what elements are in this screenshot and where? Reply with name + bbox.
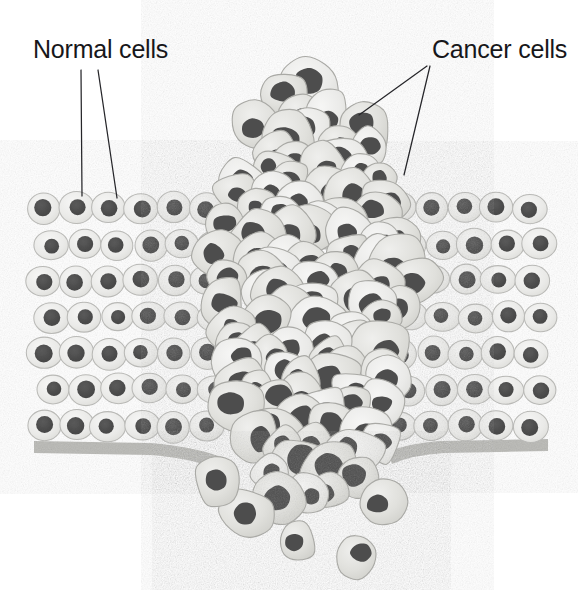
normal-cell-nucleus: [133, 345, 148, 360]
normal-cell-nucleus: [44, 309, 61, 326]
normal-cell-nucleus: [436, 239, 450, 253]
normal-cell-nucleus: [434, 308, 449, 323]
normal-cell-nucleus: [425, 345, 441, 361]
normal-cell-nucleus: [100, 273, 116, 289]
normal-cell-nucleus: [199, 418, 214, 433]
normal-cell-nucleus: [423, 200, 439, 216]
normal-cell-nucleus: [521, 419, 538, 436]
normal-cell-nucleus: [36, 274, 52, 290]
normal-cell-nucleus: [521, 202, 537, 218]
normal-cell-nucleus: [67, 417, 84, 434]
normal-cell-nucleus: [491, 273, 506, 288]
normal-cell-nucleus: [434, 381, 451, 398]
label-normal-cells: Normal cells: [33, 35, 168, 63]
normal-cell-nucleus: [135, 418, 151, 434]
normal-cell-nucleus: [109, 380, 126, 397]
normal-cell-nucleus: [36, 416, 53, 433]
normal-cell-nucleus: [77, 236, 93, 252]
normal-cell-nucleus: [99, 419, 114, 434]
normal-cell-nucleus: [47, 382, 62, 397]
normal-cell-nucleus: [468, 311, 483, 326]
normal-cell-nucleus: [44, 239, 59, 254]
normal-cell-nucleus: [102, 346, 118, 362]
normal-cell-nucleus: [175, 236, 190, 251]
normal-cell-nucleus: [77, 380, 95, 398]
normal-cell-nucleus: [458, 416, 474, 432]
normal-cell-nucleus: [466, 381, 483, 398]
normal-cell-nucleus: [133, 271, 150, 288]
normal-cell-nucleus: [35, 345, 53, 363]
normal-cell-nucleus: [175, 309, 191, 325]
normal-cell-nucleus: [70, 199, 86, 215]
normal-cell-nucleus: [533, 236, 549, 252]
normal-cell-nucleus: [34, 199, 51, 216]
normal-cell-nucleus: [466, 237, 483, 254]
normal-cell-nucleus: [457, 198, 473, 214]
normal-cell-nucleus: [78, 309, 93, 324]
normal-cell-nucleus: [142, 379, 158, 395]
normal-cell-nucleus: [108, 237, 124, 253]
normal-cell-nucleus: [142, 237, 159, 254]
normal-cell-nucleus: [134, 201, 151, 218]
cancer-invasion-figure: Normal cells Cancer cells: [0, 0, 578, 590]
normal-cell-nucleus: [499, 236, 515, 252]
normal-cell-nucleus: [499, 382, 514, 397]
normal-cell-nucleus: [168, 271, 184, 287]
normal-cell-nucleus: [176, 382, 191, 397]
normal-cell-nucleus: [489, 343, 506, 360]
normal-cell-nucleus: [140, 308, 156, 324]
normal-cell-nucleus: [500, 307, 516, 323]
normal-cell-nucleus: [111, 310, 125, 324]
normal-cell-nucleus: [523, 347, 539, 363]
normal-cell-nucleus: [165, 418, 182, 435]
normal-cell-nucleus: [66, 274, 83, 291]
normal-cell-nucleus: [533, 383, 549, 399]
normal-cell-nucleus: [533, 309, 548, 324]
label-cancer-cells: Cancer cells: [432, 35, 567, 63]
normal-cell-nucleus: [459, 347, 474, 362]
normal-cell-nucleus: [489, 418, 506, 435]
normal-cell-nucleus: [166, 200, 182, 216]
normal-cell-nucleus: [166, 345, 182, 361]
normal-cell-nucleus: [524, 273, 540, 289]
normal-cell-nucleus: [423, 418, 438, 433]
normal-cell-nucleus: [487, 198, 504, 215]
normal-cell-nucleus: [459, 271, 476, 288]
normal-cell-nucleus: [101, 200, 118, 217]
diagram-canvas: Normal cells Cancer cells: [0, 0, 578, 590]
normal-cell-nucleus: [67, 344, 84, 361]
